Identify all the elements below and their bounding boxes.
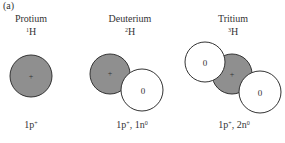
neutron-symbol: 0 <box>258 88 263 98</box>
tritium-composition: 1p+, 2n0 <box>218 120 249 130</box>
protium-composition: 1p+ <box>24 120 37 130</box>
proton-symbol: + <box>29 72 34 82</box>
proton-symbol: + <box>108 69 113 79</box>
deuterium-composition: 1p+, 1n0 <box>116 120 147 130</box>
neutron-symbol: 0 <box>141 86 146 96</box>
neutron-symbol: 0 <box>203 58 208 68</box>
deuterium-nucleus <box>90 54 163 111</box>
proton-symbol: + <box>230 70 235 80</box>
